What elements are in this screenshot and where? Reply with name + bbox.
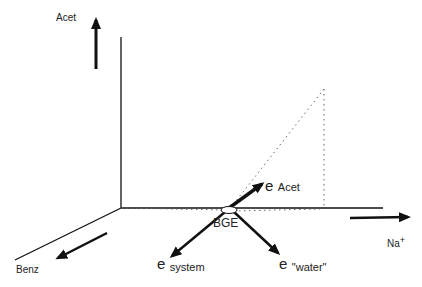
benz-arrow-icon xyxy=(58,233,107,258)
e-water-label: e "water" xyxy=(279,255,327,273)
bge-label: BGE xyxy=(213,216,238,230)
e-system-symbol: e xyxy=(157,255,165,272)
e-acet-subscript: Acet xyxy=(278,181,300,193)
e-acet-vector xyxy=(229,184,262,208)
e-water-symbol: e xyxy=(279,255,287,272)
e-acet-symbol: e xyxy=(265,177,273,194)
e-acet-label: e Acet xyxy=(265,177,300,195)
acet-axis-label: Acet xyxy=(56,12,76,23)
na-arrow-icon xyxy=(350,217,408,218)
e-system-subscript: system xyxy=(170,261,205,273)
diagram-canvas xyxy=(0,0,422,287)
na-label-text: Na xyxy=(387,238,400,249)
e-system-label: e system xyxy=(157,255,205,273)
na-axis-label: Na+ xyxy=(387,235,405,249)
axes xyxy=(15,37,383,260)
benz-axis-label: Benz xyxy=(16,264,39,275)
e-water-vector xyxy=(234,212,278,253)
na-superscript: + xyxy=(400,235,405,245)
e-water-subscript: "water" xyxy=(292,261,327,273)
bge-point-icon xyxy=(221,207,237,214)
